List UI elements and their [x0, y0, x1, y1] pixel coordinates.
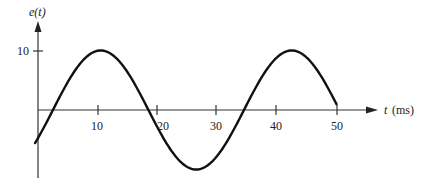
x-axis-label-var: t — [384, 103, 388, 117]
x-tick-label-10: 10 — [91, 119, 103, 133]
x-axis-arrow-icon — [366, 107, 378, 114]
x-tick-label-40: 40 — [270, 119, 282, 133]
y-tick-label-10: 10 — [17, 44, 29, 58]
sine-wave-chart: 10 10 20 30 40 50 e(t) t (ms) — [0, 0, 424, 186]
x-tick-label-50: 50 — [331, 119, 343, 133]
x-tick-label-30: 30 — [210, 119, 222, 133]
x-axis-label-unit: (ms) — [392, 103, 414, 117]
y-axis-arrow-icon — [35, 21, 42, 32]
y-axis-label: e(t) — [29, 5, 46, 19]
